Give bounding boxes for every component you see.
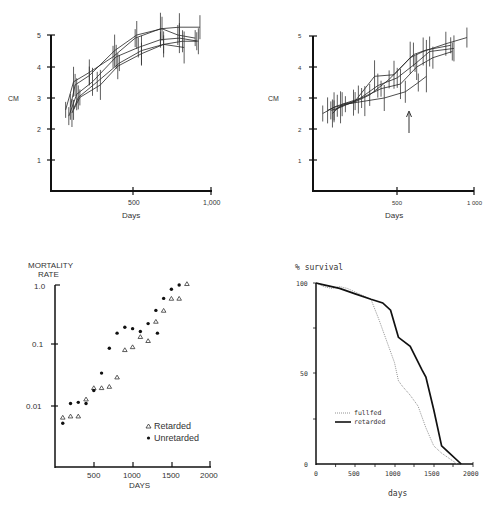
data-point-retarded	[177, 296, 182, 300]
x-axis-label: days	[388, 489, 407, 498]
y-tick-label: 5	[298, 33, 302, 39]
data-point-retarded	[60, 415, 65, 419]
data-point-unretarded	[92, 389, 95, 392]
data-point-unretarded	[69, 402, 72, 405]
survival-panel: % survival 0 50 100 0 500 1000 1500 2000…	[295, 263, 479, 498]
y-axis-label: % survival	[295, 263, 343, 272]
x-tick-label: 500	[392, 200, 403, 206]
growth-line	[334, 76, 426, 110]
x-tick-label: 1500	[162, 471, 180, 480]
data-point-retarded	[84, 397, 89, 401]
y-tick-label: 100	[296, 280, 308, 288]
y-tick-label: 1.0	[34, 282, 46, 291]
x-tick-label: 0	[314, 470, 318, 478]
y-tick-label: 0	[304, 461, 308, 469]
y-axis-label: CM	[8, 95, 19, 102]
data-point-unretarded	[154, 309, 157, 312]
data-point-unretarded	[108, 347, 111, 350]
data-point-retarded	[107, 385, 112, 389]
growth-left-data	[66, 13, 200, 127]
data-point-retarded	[76, 414, 81, 418]
x-tick-label: 1000	[385, 470, 401, 478]
y-tick-label: 1	[298, 158, 302, 164]
y-tick-label: 4	[37, 64, 41, 71]
y-tick-label: 1	[37, 157, 41, 164]
survival-line-retarded	[316, 283, 461, 464]
data-point-unretarded	[77, 401, 80, 404]
data-point-unretarded	[115, 331, 118, 334]
y-tick-label: 4	[298, 65, 302, 71]
data-point-unretarded	[123, 326, 126, 329]
survival-data	[316, 283, 461, 464]
data-point-unretarded	[139, 330, 142, 333]
x-axis-label: DAYS	[129, 481, 150, 490]
y-tick-label: 2	[37, 126, 41, 133]
dot-icon	[147, 436, 150, 439]
x-tick-label: 500	[348, 470, 360, 478]
x-tick-label: 2000	[200, 471, 218, 480]
y-axis-label-line1: MORTALITY	[28, 261, 74, 270]
x-tick-label: 500	[87, 471, 101, 480]
data-point-retarded	[185, 282, 190, 286]
survival-line-fullfed	[316, 283, 457, 464]
growth-line	[332, 52, 452, 114]
data-point-unretarded	[162, 297, 165, 300]
data-point-unretarded	[100, 371, 103, 374]
figure: 1 2 3 4 5 CM 500 1,000 Days 1 2 3 4 5 CM…	[0, 0, 496, 505]
x-axis-label: Days	[385, 211, 403, 220]
growth-line	[69, 38, 199, 116]
data-point-unretarded	[61, 421, 64, 424]
x-tick-label: 2000	[463, 470, 479, 478]
data-point-unretarded	[146, 322, 149, 325]
data-point-unretarded	[156, 331, 159, 334]
x-tick-label: 1,000	[203, 199, 221, 206]
data-point-retarded	[123, 348, 128, 352]
legend-label-fullfed: fullfed	[354, 409, 381, 417]
data-point-retarded	[130, 345, 135, 349]
data-point-retarded	[154, 319, 159, 323]
growth-line	[323, 38, 467, 114]
legend-label-unretarded: Unretarded	[154, 433, 199, 443]
y-tick-label: 3	[37, 95, 41, 102]
y-tick-label: 50	[300, 370, 308, 378]
data-point-retarded	[161, 308, 166, 312]
legend: fullfed retarded	[335, 409, 385, 426]
data-point-retarded	[146, 339, 151, 343]
y-axis-label: CM	[268, 95, 279, 102]
mortality-data	[60, 282, 189, 425]
data-point-unretarded	[170, 288, 173, 291]
legend-label-retarded: Retarded	[154, 421, 191, 431]
y-axis-label-line2: RATE	[38, 270, 59, 279]
y-tick-label: 2	[298, 127, 302, 133]
legend-label-retarded: retarded	[354, 418, 385, 426]
triangle-icon	[146, 424, 151, 428]
x-tick-label: 1 000	[467, 200, 483, 206]
x-axis-label: Days	[122, 211, 140, 220]
ticks	[313, 283, 473, 467]
y-tick-label: 0.1	[32, 340, 44, 349]
growth-line	[72, 41, 197, 113]
growth-line	[74, 44, 185, 110]
data-point-unretarded	[131, 327, 134, 330]
growth-right-data	[323, 28, 467, 128]
growth-left-panel: 1 2 3 4 5 CM 500 1,000 Days	[8, 13, 221, 220]
y-tick-label: 3	[298, 96, 302, 102]
data-point-retarded	[68, 414, 73, 418]
data-point-retarded	[138, 335, 143, 339]
data-point-unretarded	[84, 402, 87, 405]
growth-right-panel: 1 2 3 4 5 CM 500 1 000 Days	[268, 28, 483, 220]
data-point-retarded	[169, 296, 174, 300]
x-tick-label: 1500	[424, 470, 440, 478]
arrow-up-icon	[407, 111, 412, 133]
y-tick-label: 0.01	[26, 402, 42, 411]
data-point-retarded	[115, 375, 120, 379]
x-tick-label: 1000	[123, 471, 141, 480]
mortality-panel: MORTALITY RATE 0.01 0.1 1.0 500 1000 150…	[26, 261, 218, 490]
legend: Retarded Unretarded	[146, 421, 199, 443]
y-tick-label: 5	[37, 32, 41, 39]
x-tick-label: 500	[128, 199, 140, 206]
data-point-retarded	[99, 386, 104, 390]
growth-line	[331, 48, 454, 110]
data-point-unretarded	[177, 283, 180, 286]
